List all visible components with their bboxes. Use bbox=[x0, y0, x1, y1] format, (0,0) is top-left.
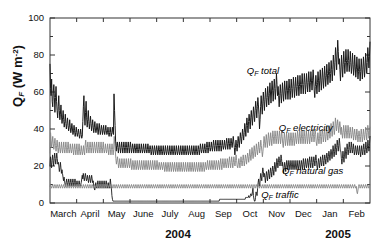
y-tick-label: 60 bbox=[20, 86, 44, 97]
y-tick-label: 80 bbox=[20, 49, 44, 60]
series-annotation: QF natural gas bbox=[282, 165, 343, 177]
series-annotation: QF electricity bbox=[279, 122, 333, 134]
y-tick-label: 100 bbox=[20, 12, 44, 23]
series-line-3 bbox=[50, 185, 370, 194]
annotation-text: total bbox=[258, 65, 279, 76]
y-tick-label: 0 bbox=[20, 197, 44, 208]
annotation-text: electricity bbox=[290, 122, 332, 133]
series-annotation: QF traffic bbox=[261, 189, 299, 201]
year-label: 2004 bbox=[148, 228, 208, 240]
y-tick-label: 40 bbox=[20, 123, 44, 134]
annotation-text: traffic bbox=[273, 189, 299, 200]
annotation-symbol: Q bbox=[261, 189, 268, 200]
year-label: 2005 bbox=[308, 228, 368, 240]
series-annotation: QF total bbox=[247, 65, 279, 77]
y-tick-label: 20 bbox=[20, 160, 44, 171]
x-tick-label: Feb bbox=[335, 208, 379, 219]
annotation-text: natural gas bbox=[294, 165, 344, 176]
figure-chart-qf-timeseries: QF (W m-2) 020406080100 MarchAprilMayJun… bbox=[0, 0, 384, 252]
